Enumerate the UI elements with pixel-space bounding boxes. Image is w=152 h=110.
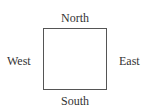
label-south: South: [61, 95, 89, 107]
label-east: East: [119, 55, 140, 67]
label-west: West: [7, 55, 31, 67]
square-region: [43, 28, 107, 90]
label-north: North: [61, 12, 89, 24]
